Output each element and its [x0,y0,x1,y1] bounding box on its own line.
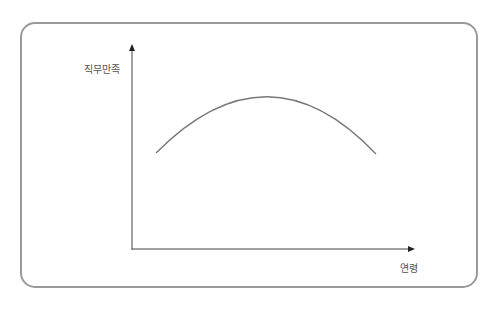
y-axis-label: 직무만족 [84,61,120,76]
x-axis [132,246,415,252]
satisfaction-curve [156,97,376,154]
y-axis [129,44,135,250]
chart-canvas [0,0,501,312]
x-axis-arrow-icon [408,246,415,252]
y-axis-arrow-icon [129,44,135,51]
x-axis-label: 연령 [400,260,418,275]
